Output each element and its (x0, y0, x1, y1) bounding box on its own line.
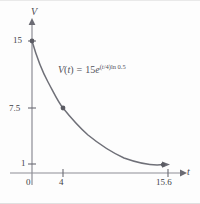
y-tick-label-15: 15 (13, 36, 22, 45)
x-tick-label-4: 4 (59, 178, 64, 187)
y-tick-label-7point5: 7.5 (9, 104, 20, 113)
plot-canvas (0, 1, 200, 204)
data-point-marker (61, 106, 66, 111)
data-point-marker (30, 39, 35, 44)
equation-close-paren: ) (70, 64, 73, 75)
y-tick-label-1: 1 (21, 159, 26, 168)
equation-exponent-value: 0.5 (118, 63, 126, 70)
y-axis-arrowhead (29, 18, 36, 25)
decay-curve (32, 41, 163, 165)
equation-exponent: (t/4)ln 0.5 (100, 63, 126, 70)
equation-annotation: V(t)=15e(t/4)ln 0.5 (58, 65, 126, 75)
equation-exponent-ln: ln (111, 63, 116, 70)
equation-coefficient: 15 (85, 64, 95, 75)
x-tick-label-0: 0 (26, 178, 31, 187)
equation-exponent-denominator: 4 (105, 63, 108, 70)
y-axis-label: V (31, 7, 37, 17)
x-tick-label-15point6: 15.6 (156, 178, 172, 187)
x-axis-arrowhead (180, 170, 187, 177)
data-point-marker (161, 162, 165, 166)
equation-equals: = (77, 64, 83, 75)
figure-container: V t 15 7.5 1 0 4 15.6 V(t)=15e(t/4)ln 0.… (0, 0, 200, 204)
x-axis-label: t (187, 167, 190, 177)
